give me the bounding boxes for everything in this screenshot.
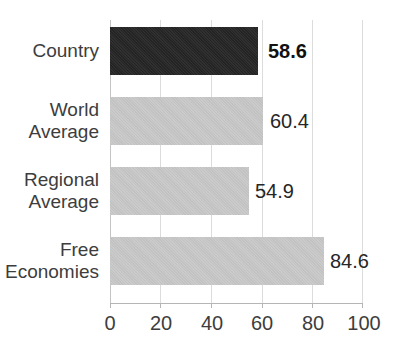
value-label-regional-average: 54.9 (255, 181, 294, 201)
tick-mark-0 (110, 303, 111, 308)
bar-world-average[interactable] (110, 97, 263, 145)
x-axis-line (110, 303, 363, 304)
value-label-free-economies: 84.6 (330, 251, 369, 271)
bar-regional-average[interactable] (110, 167, 249, 215)
tick-mark-40 (211, 303, 212, 308)
tick-label-100: 100 (334, 311, 394, 335)
tick-mark-80 (312, 303, 313, 308)
bar-free-economies[interactable] (110, 237, 324, 285)
category-label-world-average: World Average (0, 99, 99, 143)
plot-area (110, 20, 363, 303)
chart-title (110, 0, 363, 2)
value-label-world-average: 60.4 (270, 111, 309, 131)
category-label-country: Country (0, 40, 99, 62)
tick-mark-100 (362, 303, 363, 308)
tick-mark-60 (262, 303, 263, 308)
value-label-country: 58.6 (268, 41, 307, 61)
bar-chart: Country World Average Regional Average F… (0, 0, 403, 360)
tick-mark-20 (160, 303, 161, 308)
category-label-free-economies: Free Economies (0, 239, 99, 283)
bar-country[interactable] (110, 27, 258, 75)
category-label-regional-average: Regional Average (0, 169, 99, 213)
